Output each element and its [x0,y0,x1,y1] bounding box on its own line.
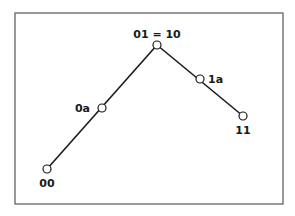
node-label-0a: 0a [75,102,90,115]
node-label-11: 11 [235,124,250,137]
node-circle-0a [98,104,106,112]
node-circle-11 [239,112,247,120]
node-label-00: 00 [39,177,55,190]
node-circle-00 [43,165,51,173]
node-circle-1a [196,75,204,83]
node-label-1a: 1a [208,73,223,86]
node-label-01: 01 = 10 [133,28,181,41]
node-circle-01 [153,41,161,49]
diagram-frame [15,13,283,204]
lattice-diagram: 000a01 = 101a11 [0,0,295,216]
nodes: 000a01 = 101a11 [39,28,250,190]
